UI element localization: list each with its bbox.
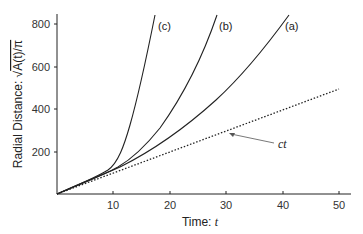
y-tick-label: 200	[32, 146, 50, 158]
ct-arrow	[231, 134, 274, 143]
x-tick-label: 50	[333, 199, 345, 211]
ct-line	[57, 89, 339, 194]
x-tick-label: 20	[164, 199, 176, 211]
svg-text:Radial Distance: √A(t)/π: Radial Distance: √A(t)/π	[11, 40, 25, 168]
curve-b	[57, 15, 217, 194]
curve-a	[57, 15, 289, 194]
y-tick-label: 600	[32, 61, 50, 73]
x-tick-label: 40	[277, 199, 289, 211]
curve-label-a: (a)	[285, 20, 298, 32]
y-axis-title: Radial Distance: √A(t)/π	[11, 40, 25, 168]
chart: 800 600 400 200 10 20 30 40 50 Time: t R…	[0, 0, 363, 234]
curve-label-b: (b)	[219, 20, 232, 32]
x-axis-title: Time: t	[182, 215, 219, 229]
x-tick-label: 10	[107, 199, 119, 211]
y-tick-label: 800	[32, 18, 50, 30]
curve-label-c: (c)	[158, 20, 171, 32]
x-tick-label: 30	[220, 199, 232, 211]
y-ticks: 800 600 400 200	[32, 18, 57, 158]
y-tick-label: 400	[32, 103, 50, 115]
ct-label: ct	[278, 137, 287, 151]
curve-c	[57, 15, 155, 194]
